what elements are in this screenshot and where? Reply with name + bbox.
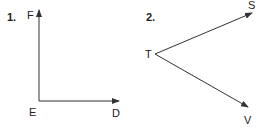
label-D: D [112, 108, 120, 119]
label-S: S [248, 0, 255, 11]
angle-diagrams [0, 0, 259, 130]
label-T: T [145, 49, 152, 60]
label-E: E [29, 107, 36, 118]
figure-1-number: 1. [7, 12, 16, 23]
figure-2-rays [155, 13, 252, 107]
ray-TS [155, 13, 252, 54]
ray-TV [155, 54, 248, 107]
label-F: F [27, 10, 34, 21]
figure-2-number: 2. [146, 12, 155, 23]
label-V: V [244, 115, 251, 126]
figure-1-rays [39, 10, 119, 101]
